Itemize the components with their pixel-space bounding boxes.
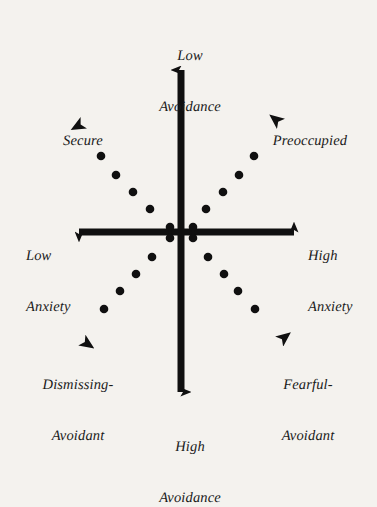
- quadrant-label-preoccupied-line1: Preoccupied: [258, 133, 362, 150]
- dismissing-avoidant-ray-dot: [132, 270, 141, 279]
- preoccupied-ray-dot: [250, 152, 259, 161]
- preoccupied-ray-dot: [189, 223, 198, 232]
- axis-label-low-anxiety: Low Anxiety: [26, 214, 88, 350]
- axis-label-low-anxiety-line1: Low: [26, 248, 88, 265]
- axis-label-high-anxiety-line2: Anxiety: [308, 299, 376, 316]
- quadrant-label-secure: Secure: [48, 99, 118, 184]
- dismissing-avoidant-ray-dot: [100, 305, 109, 314]
- secure-ray-dot: [146, 205, 155, 214]
- dismissing-avoidant-ray-dot: [116, 287, 125, 296]
- secure-ray-dot: [166, 223, 175, 232]
- axis-label-high-avoidance-line2: Avoidance: [140, 490, 240, 507]
- dismissing-avoidant-ray-dot: [148, 253, 157, 262]
- axis-label-low-anxiety-line2: Anxiety: [26, 299, 88, 316]
- axis-label-high-anxiety: High Anxiety: [308, 214, 376, 350]
- secure-ray-dot: [129, 188, 138, 197]
- quadrant-label-fearful-avoidant-line1: Fearful-: [258, 377, 358, 394]
- quadrant-label-fearful-avoidant-line2: Avoidant: [258, 428, 358, 445]
- quadrant-label-dismissing-avoidant: Dismissing- Avoidant: [22, 343, 134, 479]
- preoccupied-ray-dot: [219, 188, 228, 197]
- preoccupied-ray-dot: [202, 205, 211, 214]
- fearful-avoidant-ray-dot: [234, 287, 243, 296]
- quadrant-label-dismissing-avoidant-line1: Dismissing-: [22, 377, 134, 394]
- axis-label-low-avoidance: Low Avoidance: [140, 14, 240, 150]
- fearful-avoidant-ray-dot: [220, 270, 229, 279]
- fearful-avoidant-ray-dot: [189, 234, 198, 243]
- axis-label-high-anxiety-line1: High: [308, 248, 376, 265]
- quadrant-label-secure-line1: Secure: [48, 133, 118, 150]
- axis-label-high-avoidance-line1: High: [140, 439, 240, 456]
- quadrant-label-fearful-avoidant: Fearful- Avoidant: [258, 343, 358, 479]
- preoccupied-ray-dot: [235, 171, 244, 180]
- quadrant-label-dismissing-avoidant-line2: Avoidant: [22, 428, 134, 445]
- fearful-avoidant-ray-dot: [251, 305, 260, 314]
- axis-label-high-avoidance: High Avoidance: [140, 405, 240, 507]
- dismissing-avoidant-ray-dot: [166, 234, 175, 243]
- quadrant-label-preoccupied: Preoccupied: [258, 99, 362, 184]
- axis-label-low-avoidance-line2: Avoidance: [140, 99, 240, 116]
- fearful-avoidant-ray-dot: [204, 253, 213, 262]
- axis-label-low-avoidance-line1: Low: [140, 48, 240, 65]
